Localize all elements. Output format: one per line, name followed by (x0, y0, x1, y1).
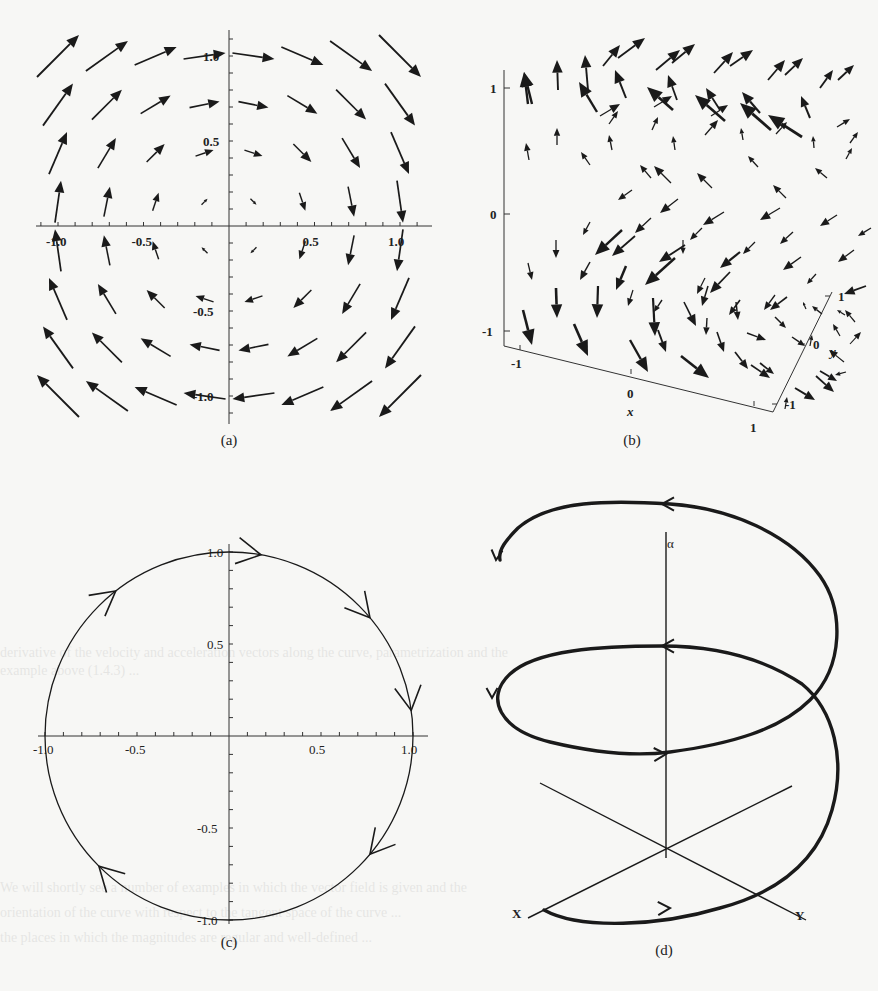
vector-arrow-3d-head (615, 70, 625, 84)
vector-arrow-3d-shaft (527, 151, 529, 160)
vector-arrow-3d-shaft (585, 262, 591, 272)
vector-arrow-3d-shaft (652, 123, 655, 130)
vector-arrow-shaft (348, 284, 360, 304)
vector-arrow-3d-head (654, 305, 660, 312)
vector-arrow-3d-head (706, 88, 716, 101)
y-base-axis (540, 783, 806, 920)
vector-arrow-3d-shaft (753, 161, 759, 167)
vector-field-plot-b: 10-1-101x-101y (440, 0, 878, 460)
vector-arrow-3d-head (835, 372, 841, 376)
vector-arrow-head (98, 284, 108, 296)
vector-arrow-3d-shaft (817, 310, 823, 314)
vector-arrow-3d-shaft (751, 365, 761, 372)
x-tick-label: -1.0 (33, 742, 54, 757)
vector-arrow-3d-head (660, 203, 671, 213)
vector-arrow-3d-shaft (603, 54, 612, 66)
vector-arrow-shaft (350, 235, 354, 254)
vector-arrow-3d-head (552, 60, 563, 73)
vector-arrow-3d-shaft (850, 137, 854, 143)
helix-curve (498, 502, 838, 923)
vector-arrow-head (287, 346, 299, 356)
vector-arrow-3d-shaft (523, 310, 528, 330)
vector-arrow-shaft (141, 102, 161, 114)
vector-arrow-shaft (104, 198, 108, 217)
vector-arrow-3d-head (703, 216, 714, 225)
vector-arrow-3d-shaft (778, 297, 787, 304)
vector-arrow-shaft (49, 143, 62, 174)
x-tick-label: 1 (750, 420, 757, 435)
z-tick-label: 1 (490, 81, 497, 96)
vector-arrow-head (153, 193, 160, 202)
x-tick-label: 1.0 (401, 742, 417, 757)
vector-arrow-3d-shaft (760, 363, 768, 369)
x-axis-label: X (512, 906, 522, 921)
vector-arrow-shaft (204, 299, 214, 302)
vector-arrow-3d-shaft (845, 250, 854, 257)
vector-arrow-3d-shaft (621, 236, 635, 248)
vector-arrow-head (190, 342, 202, 351)
vector-arrow-3d-shaft (769, 208, 780, 215)
vector-arrow-3d-shaft (668, 199, 678, 207)
vector-arrow-head (256, 101, 268, 110)
vector-arrow-3d-head (797, 339, 805, 346)
vector-arrow-3d-shaft (805, 106, 810, 118)
vector-arrow-3d-head (764, 301, 772, 310)
vector-arrow-head (385, 355, 396, 368)
vector-arrow-3d-shaft (712, 98, 720, 110)
vector-arrow-shaft (100, 341, 122, 363)
vector-arrow-3d-shaft (729, 252, 740, 261)
vector-arrow-shaft (348, 187, 352, 206)
vector-arrow-3d-shaft (586, 68, 588, 90)
panel-b: 10-1-101x-101y (b) (440, 0, 878, 460)
vector-arrow-shaft (196, 153, 206, 156)
vector-field-plot-a: -1.0-0.50.51.01.00.5-0.5-1.0 (0, 0, 440, 460)
vector-arrow-shaft (135, 52, 166, 65)
vector-arrow-shaft (55, 192, 59, 222)
vector-arrow-head (299, 250, 306, 259)
vector-arrow-shaft (250, 199, 253, 202)
vector-arrow-3d-shaft (828, 215, 837, 221)
vector-arrow-3d-shaft (684, 302, 691, 316)
vector-arrow-3d-head (843, 119, 850, 125)
vector-arrow-head (152, 241, 159, 250)
vector-arrow-3d-shaft (846, 153, 849, 159)
vector-arrow-shaft (396, 278, 409, 309)
vector-arrow-head (346, 253, 355, 265)
vector-arrow-shaft (379, 35, 412, 68)
vector-arrow-3d-head (783, 261, 794, 270)
vector-arrow-head (86, 381, 99, 392)
vector-arrow-head (350, 156, 360, 168)
helix-arrow (487, 688, 498, 698)
x-tick-label: 0.5 (309, 742, 325, 757)
vector-arrow-3d-shaft (854, 286, 866, 290)
vector-arrow-shaft (340, 381, 372, 404)
vector-arrow-3d-shaft (813, 141, 814, 148)
vector-arrow-head (232, 392, 244, 402)
vector-arrow-shaft (104, 294, 116, 314)
x-axis-label: x (626, 404, 634, 419)
vector-arrow-3d-shaft (681, 356, 697, 368)
vector-arrow-3d-shaft (585, 158, 590, 165)
x-tick-label: -0.5 (132, 234, 153, 249)
vector-arrow-3d-head (527, 272, 533, 280)
vector-arrow-3d-head (838, 254, 847, 262)
alpha-axis-label: α (667, 536, 674, 551)
vector-arrow-3d-shaft (630, 340, 641, 359)
vector-arrow-3d-shaft (609, 117, 614, 124)
caption-c: (c) (221, 934, 238, 951)
vector-arrow-3d-head (680, 248, 685, 254)
vector-arrow-shaft (201, 347, 220, 351)
vector-arrow-shaft (253, 296, 263, 299)
vector-arrow-3d-shaft (838, 72, 847, 80)
vector-arrow-3d-head (608, 45, 620, 58)
vector-arrow-shaft (388, 375, 421, 408)
vector-arrow-head (342, 302, 352, 314)
vector-arrow-3d-shaft (706, 318, 707, 327)
vector-arrow-shaft (106, 246, 110, 265)
vector-arrow-shaft (98, 148, 110, 168)
vector-arrow-3d-shaft (786, 232, 793, 239)
vector-arrow-head (299, 201, 306, 210)
vector-arrow-3d-shaft (630, 290, 633, 299)
vector-arrow-3d-shaft (785, 66, 795, 75)
vector-arrow-3d-shaft (705, 127, 712, 135)
